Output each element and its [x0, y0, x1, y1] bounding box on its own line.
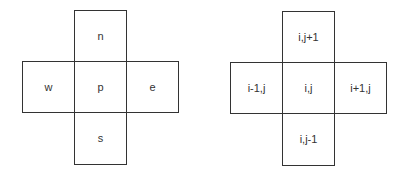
- cell-north: i,j+1: [282, 11, 335, 63]
- cell-label: i+1,j: [350, 83, 371, 94]
- cell-label: n: [97, 31, 103, 42]
- cell-center: p: [74, 61, 127, 113]
- cell-west: w: [22, 61, 75, 113]
- cell-east: e: [126, 61, 179, 113]
- cell-south: i,j-1: [282, 113, 335, 166]
- cell-label: i,j-1: [300, 134, 318, 145]
- cell-label: w: [45, 82, 53, 93]
- cell-west: i-1,j: [230, 62, 283, 114]
- cell-label: s: [98, 133, 104, 144]
- cell-south: s: [74, 112, 127, 165]
- cell-label: p: [97, 82, 103, 93]
- five-point-stencil-diagram: n w p e s i,j+1 i-1,j i,j i+1,j i,j-1: [0, 0, 403, 177]
- cell-label: e: [149, 82, 155, 93]
- cell-center: i,j: [282, 62, 335, 114]
- cell-east: i+1,j: [334, 62, 387, 114]
- cell-label: i,j: [305, 83, 313, 94]
- cell-label: i,j+1: [298, 32, 319, 43]
- cell-label: i-1,j: [248, 83, 266, 94]
- cell-north: n: [74, 10, 127, 62]
